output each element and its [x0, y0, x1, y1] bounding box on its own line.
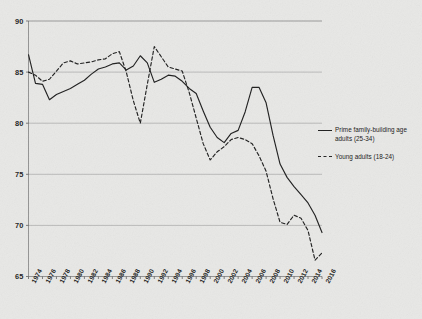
y-tick-label: 90 — [4, 17, 24, 26]
legend-swatch-dashed — [318, 156, 332, 157]
gridlines — [29, 21, 323, 225]
series-line-1 — [29, 55, 323, 233]
y-tick-label: 85 — [4, 68, 24, 77]
data-series-group — [29, 47, 323, 261]
line-chart: 657075808590 197419761978198019821984198… — [0, 0, 422, 319]
y-tick-label: 65 — [4, 272, 24, 281]
legend-label: Prime family-building age adults (25-34) — [335, 126, 407, 142]
legend-label: Young adults (18-24) — [335, 153, 394, 160]
y-tick-label: 80 — [4, 119, 24, 128]
legend-entry-2: Young adults (18-24) — [318, 153, 420, 162]
y-tick-label: 70 — [4, 221, 24, 230]
legend-swatch-solid — [318, 130, 332, 131]
y-tick-label: 75 — [4, 170, 24, 179]
chart-legend: Prime family-building age adults (25-34)… — [318, 126, 420, 171]
axis-frame — [26, 21, 322, 279]
legend-entry-1: Prime family-building age adults (25-34) — [318, 126, 420, 144]
